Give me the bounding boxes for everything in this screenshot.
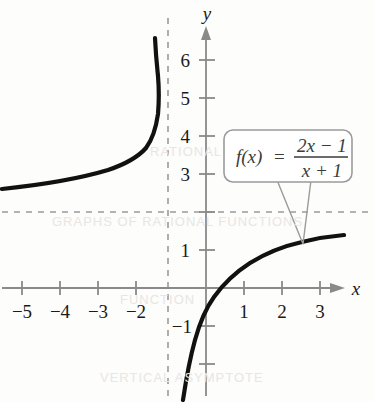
y-tick-label: −1 [172,316,192,337]
x-tick-label: 2 [277,301,287,322]
x-tick-label: −5 [12,301,32,322]
rational-function-figure: RATIONAL GRAPHS OF RATIONAL FUNCTIONS FU… [0,0,374,402]
y-tick-label: 5 [181,88,191,109]
formula-equals-sign: = [274,146,285,167]
formula-denominator: x + 1 [301,160,342,181]
formula-numerator: 2x − 1 [297,135,347,156]
y-tick-label: 3 [181,164,191,185]
y-axis-label: y [201,3,212,24]
x-tick-label: −3 [88,301,108,322]
x-axis-arrow-icon [330,283,345,293]
curve-left-branch [2,38,159,189]
graph-canvas: −5 −4 −3 −2 1 2 3 6 5 4 3 1 −1 x y f(x) … [0,0,374,402]
y-tick-label: 6 [181,50,191,71]
x-axis-label: x [351,278,361,299]
y-tick-label: 1 [181,240,191,261]
x-tick-label: −4 [50,301,71,322]
y-axis-arrow-icon [201,26,211,40]
x-tick-label: 3 [315,301,325,322]
formula-function-name: f(x) [236,146,262,168]
x-tick-label: 1 [239,301,249,322]
x-tick-label: −2 [126,301,146,322]
y-tick-label: 4 [181,126,191,147]
